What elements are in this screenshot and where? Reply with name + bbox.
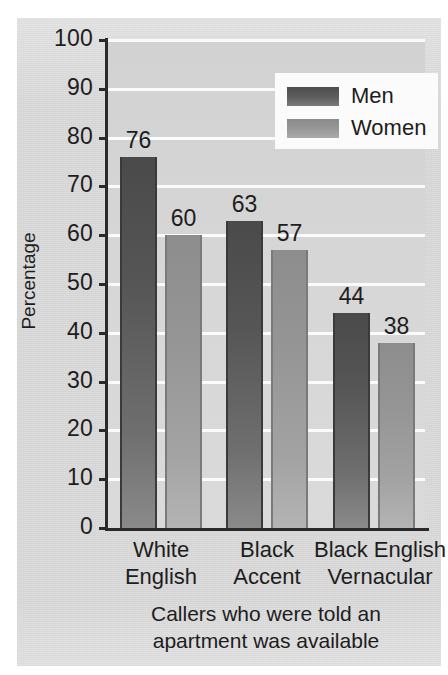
caption-line-1: Callers who were told an (57, 600, 448, 627)
legend-label-women: Women (351, 115, 426, 141)
y-axis-tick-label: 90 (25, 74, 93, 101)
bar-value-label: 38 (369, 313, 425, 340)
chart-panel: 1009080706050403020100 Percentage Men Wo… (17, 18, 441, 666)
legend-item-men: Men (287, 81, 394, 111)
chart-legend: Men Women (275, 73, 438, 149)
bar-women-0 (165, 235, 202, 528)
y-axis-tick-label: 20 (25, 415, 93, 442)
y-axis-tick-label: 10 (25, 464, 93, 491)
bar-women-1 (271, 250, 308, 528)
bar-women-2 (378, 343, 415, 528)
x-axis-category-label-2: Black EnglishVernacular (300, 536, 448, 590)
bar-value-label: 76 (111, 127, 167, 154)
category-label-line: Vernacular (300, 563, 448, 590)
bar-men-2 (333, 313, 370, 528)
category-label-line: Black English (300, 536, 448, 563)
chart-caption: Callers who were told an apartment was a… (57, 600, 448, 654)
gridline (107, 39, 425, 42)
bar-value-label: 44 (324, 283, 380, 310)
x-axis-line (105, 528, 429, 531)
bar-value-label: 63 (217, 191, 273, 218)
legend-swatch-women-icon (287, 119, 339, 138)
legend-item-women: Women (287, 113, 426, 143)
y-axis-tick-label: 80 (25, 123, 93, 150)
y-axis-title: Percentage (18, 181, 40, 381)
bar-value-label: 60 (156, 205, 212, 232)
caption-line-2: apartment was available (57, 627, 448, 654)
bar-men-0 (120, 157, 157, 528)
bar-men-1 (226, 221, 263, 528)
y-axis-tick-label: 100 (25, 25, 93, 52)
bar-value-label: 57 (262, 220, 318, 247)
legend-label-men: Men (351, 83, 394, 109)
legend-swatch-men-icon (287, 87, 339, 106)
figure-container: 1009080706050403020100 Percentage Men Wo… (0, 0, 448, 675)
